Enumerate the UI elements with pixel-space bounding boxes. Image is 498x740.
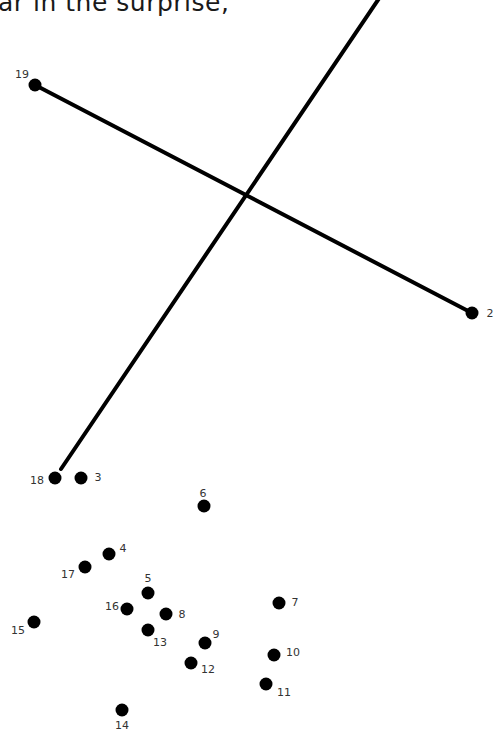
dot-label-7: 7 xyxy=(292,596,299,609)
dot-label-15: 15 xyxy=(11,624,25,637)
dot-15 xyxy=(28,616,41,629)
dot-10 xyxy=(268,649,281,662)
dot-label-13: 13 xyxy=(153,636,167,649)
dot-label-18: 18 xyxy=(30,474,44,487)
dot-12 xyxy=(185,657,198,670)
dot-label-2: 2 xyxy=(487,307,494,320)
dot-label-19: 19 xyxy=(15,68,29,81)
dot-2 xyxy=(466,307,479,320)
dot-4 xyxy=(103,548,116,561)
dot-19 xyxy=(29,79,42,92)
dot-label-11: 11 xyxy=(277,686,291,699)
dot-label-3: 3 xyxy=(95,471,102,484)
dot-14 xyxy=(116,704,129,717)
dot-11 xyxy=(260,678,273,691)
dot-label-4: 4 xyxy=(120,542,127,555)
dot-7 xyxy=(273,597,286,610)
dot-8 xyxy=(160,608,173,621)
dot-label-16: 16 xyxy=(105,600,119,613)
dot-18 xyxy=(49,472,62,485)
dot-label-9: 9 xyxy=(213,628,220,641)
dot-label-8: 8 xyxy=(179,608,186,621)
dot-6 xyxy=(198,500,211,513)
dot-label-6: 6 xyxy=(200,487,207,500)
connecting-line xyxy=(35,85,472,313)
dot-17 xyxy=(79,561,92,574)
connecting-lines xyxy=(0,0,498,740)
dot-label-17: 17 xyxy=(61,568,75,581)
dot-label-12: 12 xyxy=(201,663,215,676)
dot-16 xyxy=(121,603,134,616)
dot-label-14: 14 xyxy=(115,719,129,732)
dot-5 xyxy=(142,587,155,600)
dot-9 xyxy=(199,637,212,650)
connecting-line xyxy=(61,0,380,469)
dot-label-5: 5 xyxy=(145,572,152,585)
dot-3 xyxy=(75,472,88,485)
dot-label-10: 10 xyxy=(286,646,300,659)
